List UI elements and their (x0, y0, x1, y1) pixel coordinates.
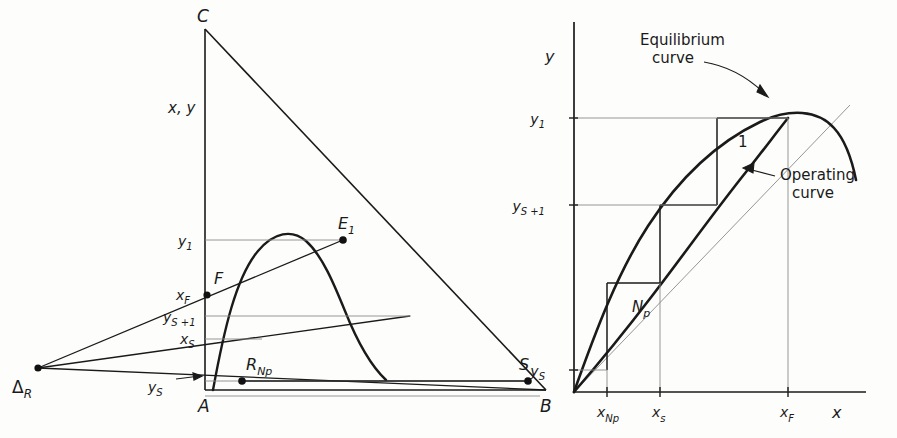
left-diagram: C A B x, y ΔR F E1 RNp S y1 xF (12, 6, 552, 416)
left-diagram-points (34, 236, 531, 385)
ytick-label-y1: y1 (529, 111, 545, 130)
xtick-label-xF: xF (779, 404, 794, 424)
point-E1-marker (339, 236, 347, 244)
difference-point-label: ΔR (12, 377, 32, 401)
yS-arrow-head (193, 373, 202, 380)
operating-leader-arrowhead (743, 163, 754, 173)
point-label-F: F (214, 269, 224, 288)
vertex-label-B: B (540, 396, 552, 416)
right-diagram: y x y1 yS +1 yS xNp xs xF Equilibrium cu… (511, 22, 866, 424)
left-label-ys1: yS +1 (162, 309, 196, 328)
ytick-label-yS: yS (529, 363, 545, 382)
axis-label-xy: x, y (167, 99, 196, 117)
figure-container: C A B x, y ΔR F E1 RNp S y1 xF (0, 0, 897, 438)
operating-curve (574, 118, 788, 392)
triangle-edge-CB (205, 29, 546, 390)
point-label-E1: E1 (338, 214, 355, 237)
ytick-label-ys1: yS +1 (511, 198, 545, 217)
stage-staircase (607, 118, 788, 370)
point-deltaR-marker (34, 364, 41, 371)
triangle-outline (205, 29, 546, 390)
equilibrium-leader-arrowhead (757, 85, 768, 97)
line-deltaR-to-xs-S (38, 316, 410, 368)
xtick-label-xNp: xNp (596, 404, 619, 424)
operating-curve-label: Operating curve (780, 166, 860, 202)
vertex-label-A: A (197, 396, 210, 416)
binodal-curve (213, 234, 386, 390)
equilibrium-curve (574, 113, 856, 392)
xtick-label-xs: xs (651, 404, 666, 424)
point-label-S: S (519, 355, 529, 374)
point-RNp-marker (238, 377, 246, 385)
equilibrium-leader-line (704, 62, 763, 92)
equilibrium-curve-label: Equilibrium curve (640, 31, 730, 67)
delta-r-construction-lines (38, 240, 546, 390)
figure-svg: C A B x, y ΔR F E1 RNp S y1 xF (0, 0, 897, 438)
y-axis-title: y (544, 47, 555, 66)
stage-1-label: 1 (738, 133, 748, 151)
point-label-RNp: RNp (246, 355, 272, 378)
left-label-xF: xF (175, 287, 190, 306)
x-axis-title: x (831, 403, 842, 422)
line-deltaR-to-A-B (38, 368, 546, 390)
reference-45-line (574, 105, 850, 392)
vertex-label-C: C (197, 6, 209, 26)
left-label-y1: y1 (177, 233, 193, 252)
left-label-yS: yS (147, 379, 163, 398)
point-F-marker (203, 291, 210, 298)
